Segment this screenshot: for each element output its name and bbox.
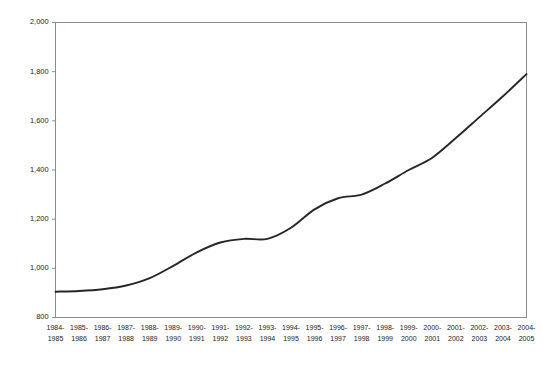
x-axis-tick-label-bottom: 1998 bbox=[354, 335, 370, 342]
x-axis-tick-label-bottom: 1993 bbox=[236, 335, 252, 342]
x-axis-tick-label-bottom: 1995 bbox=[283, 335, 299, 342]
x-axis-tick-label-bottom: 2001 bbox=[425, 335, 441, 342]
x-axis-tick-label-top: 1997- bbox=[353, 324, 372, 331]
x-axis-tick-label-bottom: 1996 bbox=[307, 335, 323, 342]
x-axis-tick-label-top: 1995- bbox=[306, 324, 325, 331]
x-axis-tick-label-top: 2002- bbox=[470, 324, 489, 331]
x-axis-tick-label-bottom: 1997 bbox=[330, 335, 346, 342]
x-axis-tick-label-top: 1998- bbox=[376, 324, 395, 331]
x-axis-tick-label-top: 2003- bbox=[494, 324, 513, 331]
x-axis-tick-label-bottom: 2003 bbox=[472, 335, 488, 342]
x-axis-tick-label-bottom: 1994 bbox=[260, 335, 276, 342]
x-axis-tick-label-top: 1984- bbox=[47, 324, 66, 331]
y-axis-tick-label: 1,400 bbox=[30, 165, 49, 174]
chart-container: 8001,0001,2001,4001,6001,8002,000 1984-1… bbox=[0, 0, 555, 370]
y-axis-tick-label: 1,000 bbox=[30, 263, 49, 272]
x-axis-tick-label-top: 1991- bbox=[211, 324, 230, 331]
x-axis-tick-label-top: 2000- bbox=[423, 324, 442, 331]
x-axis-tick-label-bottom: 1985 bbox=[48, 335, 64, 342]
x-axis-tick-label-bottom: 1986 bbox=[71, 335, 87, 342]
x-axis-tick-label-top: 2001- bbox=[447, 324, 466, 331]
x-axis-tick-label-top: 1986- bbox=[94, 324, 113, 331]
x-axis-tick-label-bottom: 1987 bbox=[95, 335, 111, 342]
x-axis-tick-label-bottom: 2002 bbox=[448, 335, 464, 342]
x-axis-tick-label-bottom: 2004 bbox=[495, 335, 511, 342]
x-axis-tick-label-top: 2004- bbox=[518, 324, 537, 331]
y-axis-tick-label: 1,200 bbox=[30, 214, 49, 223]
x-axis-tick-label-bottom: 1990 bbox=[165, 335, 181, 342]
x-axis-tick-label-top: 1985- bbox=[70, 324, 89, 331]
x-axis-tick-label-bottom: 1999 bbox=[377, 335, 393, 342]
x-axis-tick-label-top: 1988- bbox=[141, 324, 160, 331]
x-axis-tick-label-top: 1989- bbox=[164, 324, 183, 331]
y-axis-tick-label: 1,800 bbox=[30, 67, 49, 76]
y-axis-tick-label: 800 bbox=[36, 312, 48, 321]
x-axis-tick-label-top: 1999- bbox=[400, 324, 419, 331]
x-axis-tick-label-top: 1992- bbox=[235, 324, 254, 331]
x-axis-tick-label-bottom: 1989 bbox=[142, 335, 158, 342]
x-axis-tick-label-bottom: 2005 bbox=[519, 335, 535, 342]
x-axis-tick-label-bottom: 1991 bbox=[189, 335, 205, 342]
x-axis-tick-label-bottom: 1988 bbox=[118, 335, 134, 342]
x-axis-tick-label-top: 1990- bbox=[188, 324, 207, 331]
x-axis-tick-label-top: 1993- bbox=[258, 324, 277, 331]
y-axis-tick-label: 2,000 bbox=[30, 17, 49, 26]
x-axis-tick-label-top: 1996- bbox=[329, 324, 348, 331]
y-axis-tick-label: 1,600 bbox=[30, 116, 49, 125]
x-axis-tick-label-bottom: 1992 bbox=[213, 335, 229, 342]
chart-background bbox=[0, 0, 555, 370]
x-axis-tick-label-top: 1994- bbox=[282, 324, 301, 331]
x-axis-tick-label-bottom: 2000 bbox=[401, 335, 417, 342]
line-chart: 8001,0001,2001,4001,6001,8002,000 1984-1… bbox=[0, 0, 555, 370]
x-axis-tick-label-top: 1987- bbox=[117, 324, 136, 331]
